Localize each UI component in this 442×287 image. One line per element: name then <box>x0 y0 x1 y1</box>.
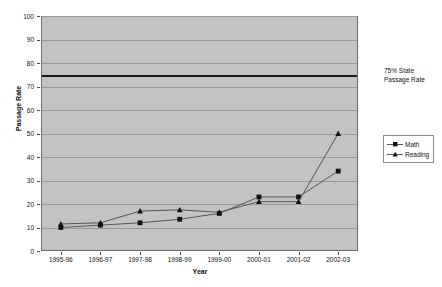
x-axis-tick-mark <box>299 252 300 255</box>
reference-line-annotation: 75% State Passage Rate <box>384 66 442 84</box>
series-line-reading <box>61 134 338 224</box>
x-axis-tick-mark <box>61 252 62 255</box>
y-axis-tick-mark <box>37 228 40 229</box>
x-axis-tick-mark <box>140 252 141 255</box>
x-axis-title: Year <box>160 268 240 275</box>
x-axis-tick-mark <box>259 252 260 255</box>
y-axis-tick-mark <box>37 157 40 158</box>
annotation-line-2: Passage Rate <box>384 75 442 84</box>
legend-item-math: Math <box>386 139 429 149</box>
legend-item-reading: Reading <box>386 149 429 159</box>
legend-marker-square-icon <box>386 140 404 149</box>
y-axis-tick-mark <box>37 110 40 111</box>
y-axis-tick-label: 100 <box>8 13 34 20</box>
y-axis-tick-label: 0 <box>8 248 34 255</box>
data-point-math <box>257 195 262 200</box>
data-point-math <box>177 217 182 222</box>
data-point-math <box>336 169 341 174</box>
y-axis-tick-mark <box>37 63 40 64</box>
legend-marker-triangle-icon <box>386 150 404 159</box>
y-axis-tick-mark <box>37 87 40 88</box>
y-axis-tick-label: 20 <box>8 201 34 208</box>
y-axis-tick-label: 40 <box>8 154 34 161</box>
y-axis-tick-label: 10 <box>8 224 34 231</box>
x-axis-tick-mark <box>338 252 339 255</box>
legend-label-reading: Reading <box>405 151 429 158</box>
y-axis-tick-mark <box>37 204 40 205</box>
y-axis-tick-mark <box>37 181 40 182</box>
y-axis-tick-mark <box>37 251 40 252</box>
data-series-layer <box>41 16 358 251</box>
y-axis-tick-label: 80 <box>8 60 34 67</box>
x-axis-tick-mark <box>100 252 101 255</box>
data-point-math <box>138 220 143 225</box>
x-axis-tick-mark <box>180 252 181 255</box>
annotation-line-1: 75% State <box>384 66 442 75</box>
y-axis-tick-mark <box>37 16 40 17</box>
y-axis-tick-mark <box>37 40 40 41</box>
y-axis-tick-label: 30 <box>8 177 34 184</box>
legend-label-math: Math <box>405 141 419 148</box>
data-point-reading <box>335 131 341 136</box>
chart-legend: Math Reading <box>383 135 434 163</box>
passage-rate-line-chart: 0102030405060708090100 1995-961996-97199… <box>0 0 442 287</box>
x-axis-tick-label: 2002-03 <box>312 256 364 264</box>
y-axis-tick-mark <box>37 134 40 135</box>
y-axis-title: Passage Rate <box>15 69 22 149</box>
x-axis-tick-mark <box>219 252 220 255</box>
y-axis-tick-label: 90 <box>8 36 34 43</box>
